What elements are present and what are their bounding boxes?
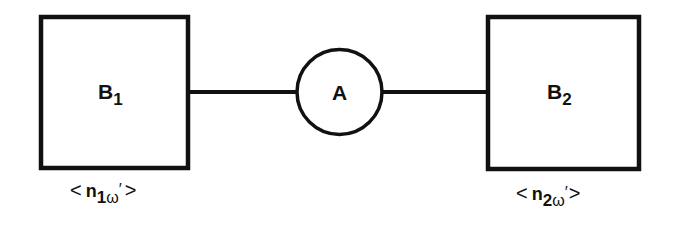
node-b2-caption: <n2ω′> xyxy=(516,182,580,210)
caption-subscript-omega: ω xyxy=(552,192,565,209)
node-b1-caption: <n1ω′> xyxy=(70,179,136,207)
caption-close-bracket: > xyxy=(125,179,137,201)
caption-symbol: n xyxy=(86,181,97,201)
caption-symbol: n xyxy=(532,184,543,204)
caption-close-bracket: > xyxy=(569,182,581,204)
caption-subscript-index: 1 xyxy=(97,188,106,207)
caption-subscript-omega: ω xyxy=(106,189,119,206)
node-a-label: A xyxy=(332,81,347,104)
caption-subscript-index: 2 xyxy=(543,191,552,210)
caption-open-bracket: < xyxy=(516,182,528,204)
node-b1: B1 xyxy=(41,17,188,168)
caption-open-bracket: < xyxy=(70,179,82,201)
caption-prime: ′ xyxy=(119,181,122,198)
node-a: A xyxy=(297,50,382,135)
diagram-canvas: B1 A B2 <n1ω′> <n2ω′> xyxy=(0,0,680,227)
caption-prime: ′ xyxy=(565,184,568,201)
node-b2: B2 xyxy=(488,17,639,169)
